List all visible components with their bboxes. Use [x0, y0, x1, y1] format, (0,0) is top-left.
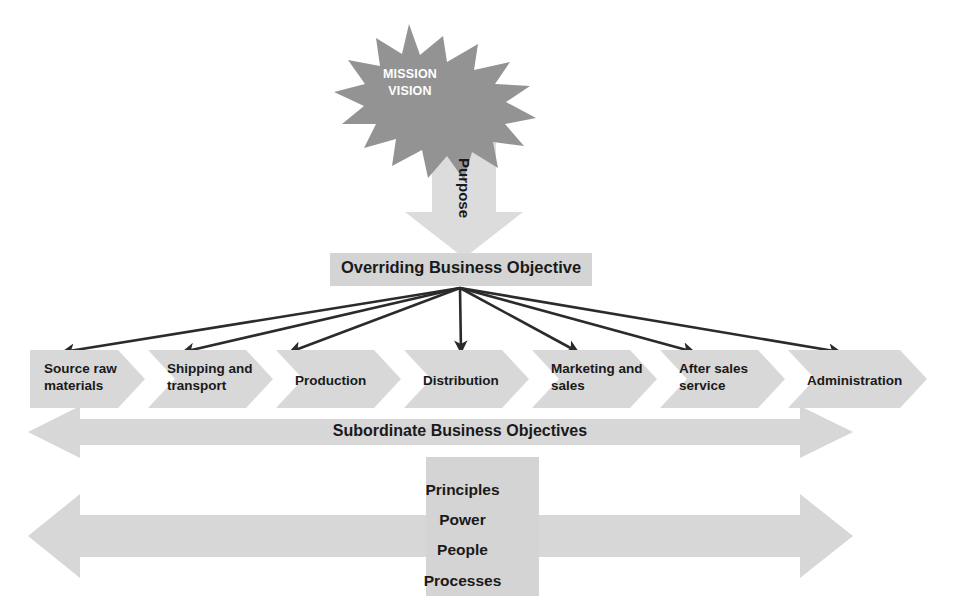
chevron-label-shipping-and-transport: Shipping and transport	[167, 360, 271, 395]
chevron-label-production: Production	[295, 372, 395, 389]
fan-arrow-2	[183, 288, 460, 352]
fan-arrows	[63, 288, 840, 352]
chevron-label-marketing-and-sales: Marketing and sales	[551, 360, 655, 395]
fan-arrow-1	[63, 288, 460, 352]
chevron-label-distribution: Distribution	[423, 372, 527, 389]
overriding-business-objective-label: Overriding Business Objective	[330, 258, 592, 277]
fan-arrow-6	[460, 288, 694, 352]
purpose-label: Purpose	[416, 140, 512, 236]
fan-arrow-4	[460, 288, 461, 352]
enablers-label: Principles Power People Processes	[400, 475, 525, 596]
chevron-label-administration: Administration	[807, 372, 923, 389]
mission-vision-label: MISSION VISION	[345, 66, 475, 100]
chevron-label-after-sales-service: After sales service	[679, 360, 779, 395]
diagram-canvas: MISSION VISION Purpose Overriding Busine…	[0, 0, 960, 610]
fan-arrow-3	[290, 288, 460, 352]
chevron-label-source-raw-materials: Source raw materials	[44, 360, 140, 395]
subordinate-business-objectives-label: Subordinate Business Objectives	[230, 422, 690, 441]
